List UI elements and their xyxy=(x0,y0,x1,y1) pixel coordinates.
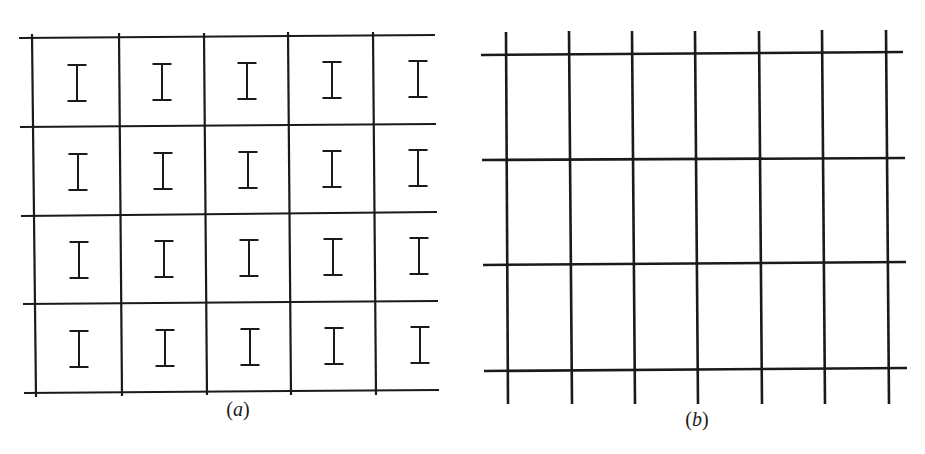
panel-b-grid xyxy=(0,0,925,454)
grid-line-horizontal xyxy=(481,52,903,55)
panel-a-caption: (a) xyxy=(226,398,249,421)
grid-line-vertical xyxy=(822,30,825,404)
grid-line-vertical xyxy=(886,30,889,404)
grid-line-horizontal xyxy=(482,158,905,160)
grid-line-vertical xyxy=(695,31,698,404)
grid-line-horizontal xyxy=(484,368,907,371)
panel-b-caption: (b) xyxy=(685,408,708,431)
grid-line-horizontal xyxy=(483,262,906,265)
figure: (a) (b) xyxy=(0,0,925,454)
grid-line-vertical xyxy=(569,31,572,404)
grid-line-vertical xyxy=(506,32,508,404)
grid-line-vertical xyxy=(632,31,635,404)
grid-line-vertical xyxy=(759,31,762,404)
